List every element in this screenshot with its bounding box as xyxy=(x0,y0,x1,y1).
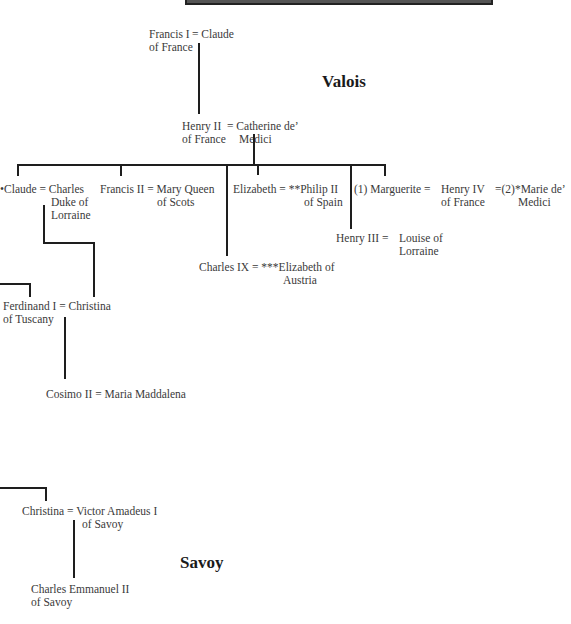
drop-francis-ii xyxy=(120,164,122,176)
drop-henry-iii xyxy=(350,164,352,229)
line-ferdinand-across xyxy=(0,283,30,285)
person-henry-iv-title: of France xyxy=(441,196,485,209)
drop-claude xyxy=(17,164,19,176)
line-claude-across xyxy=(43,242,95,244)
line-to-charles-emmanuel xyxy=(73,520,75,578)
person-henry-ii-title: of France xyxy=(182,133,226,146)
person-francis-ii: Francis II = Mary Queen xyxy=(100,183,214,196)
line-to-christina xyxy=(93,242,95,297)
person-victor-amadeus: of Savoy xyxy=(82,518,123,531)
person-louise: Louise of xyxy=(399,232,443,245)
person-christina-savoy: Christina = Victor Amadeus I xyxy=(22,505,157,518)
drop-elizabeth xyxy=(257,164,259,175)
person-louise-2: Lorraine xyxy=(399,245,439,258)
person-claude: •Claude = Charles xyxy=(0,183,84,196)
person-elizabeth-austria: Austria xyxy=(283,274,317,287)
line-francis-to-henry xyxy=(198,43,200,114)
person-henry-iii: Henry III = xyxy=(336,232,388,245)
person-francis-i: Francis I xyxy=(149,28,190,41)
house-label-savoy: Savoy xyxy=(180,553,223,573)
line-claude-down xyxy=(43,205,45,244)
top-frame-edge xyxy=(185,0,493,5)
house-label-valois: Valois xyxy=(322,72,366,92)
person-cosimo: Cosimo II = Maria Maddalena xyxy=(46,388,186,401)
line-ferdinand-to-cosimo xyxy=(64,317,66,379)
person-francis-i-title: of France xyxy=(149,41,193,54)
person-marie-2: Medici xyxy=(518,196,551,209)
line-henry-children xyxy=(253,134,255,166)
person-charles-emmanuel: Charles Emmanuel II xyxy=(31,583,129,596)
drop-marguerite xyxy=(384,164,386,176)
person-marie: =(2)*Marie de’ xyxy=(495,183,566,196)
line-children-bar xyxy=(17,164,386,166)
person-philip-ii: of Spain xyxy=(304,196,343,209)
person-charles-emmanuel-2: of Savoy xyxy=(31,596,72,609)
person-charles-lorraine: Duke of xyxy=(51,196,88,209)
person-henry-ii: Henry II xyxy=(182,120,221,133)
person-ferdinand-2: of Tuscany xyxy=(3,313,54,326)
person-elizabeth: Elizabeth = **Philip II xyxy=(233,183,338,196)
person-marguerite: (1) Marguerite = xyxy=(354,183,431,196)
spouse-catherine: = Catherine de’ xyxy=(227,120,299,133)
person-mary-scots: of Scots xyxy=(157,196,194,209)
spouse-catherine-2: Medici xyxy=(239,133,272,146)
person-henry-iv: Henry IV xyxy=(441,183,485,196)
person-charles-ix: Charles IX = ***Elizabeth of xyxy=(199,261,335,274)
line-to-christina-savoy xyxy=(45,487,47,501)
line-to-ferdinand xyxy=(29,283,31,297)
drop-charles-ix xyxy=(226,164,228,256)
line-savoy-across xyxy=(0,487,46,489)
person-charles-lorraine-2: Lorraine xyxy=(51,209,91,222)
person-ferdinand: Ferdinand I = Christina xyxy=(3,300,111,313)
spouse-claude: = Claude xyxy=(192,28,234,41)
